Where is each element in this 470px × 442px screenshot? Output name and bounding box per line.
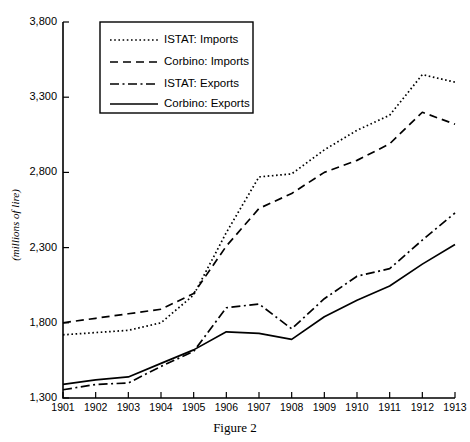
x-axis-tick-label: 1904 [149,401,173,413]
y-axis-tick-label: 2,800 [29,165,57,177]
series-line-dashed [63,112,455,323]
y-axis-tick-label: 2,300 [29,241,57,253]
x-axis-tick-label: 1911 [378,401,401,413]
x-axis-tick-label: 1913 [443,401,467,413]
legend-label: ISTAT: Imports [164,33,239,45]
x-axis-tick-label: 1902 [84,401,108,413]
y-axis-label-text: (millions of lire) [9,189,22,261]
y-axis-tick-label: 3,800 [29,15,57,27]
x-axis-tick-label: 1910 [345,401,369,413]
x-axis-tick-label: 1907 [247,401,271,413]
line-chart: (millions of lire) 1,3001,8002,3002,8003… [0,0,470,442]
x-axis-tick-label: 1905 [182,401,206,413]
legend-label: Corbino: Imports [164,55,249,67]
series-line-dashdot [63,213,455,390]
y-axis-tick-label: 1,800 [29,316,57,328]
x-axis-tick-label: 1908 [280,401,304,413]
x-axis-tick-label: 1901 [51,401,75,413]
x-axis-tick-label: 1912 [411,401,435,413]
x-axis-tick-label: 1909 [313,401,337,413]
x-axis-tick-label: 1906 [215,401,239,413]
chart-legend: ISTAT: ImportsCorbino: ImportsISTAT: Exp… [100,22,253,113]
y-axis-tick-label: 3,300 [29,90,57,102]
data-series-group [63,75,455,390]
x-axis-tick-labels: 1901190219031904190519061907190819091910… [51,401,467,413]
legend-label: Corbino: Exports [164,97,250,109]
y-axis-label: (millions of lire) [9,189,22,261]
figure-container: (millions of lire) 1,3001,8002,3002,8003… [0,0,470,442]
figure-caption: Figure 2 [213,420,257,435]
legend-label: ISTAT: Exports [164,77,239,89]
y-axis-tick-labels: 1,3001,8002,3002,8003,3003,800 [29,15,57,403]
x-axis-tick-label: 1903 [117,401,141,413]
